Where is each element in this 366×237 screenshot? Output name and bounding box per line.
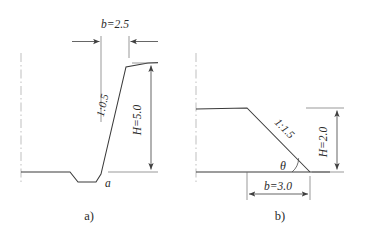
panel-a-slope-ratio-label: 1:0.5 — [94, 92, 111, 118]
panel-a-caption: a) — [84, 209, 94, 223]
panel-b-height-label: H=2.0 — [317, 127, 329, 159]
panel-a-crest-width-label: b=2.5 — [101, 18, 129, 30]
panel-b: 1:1.5 θ H=2.0 b=3.0 b) — [196, 53, 344, 223]
panel-a-toe-point-label: a — [105, 177, 111, 189]
panel-a-height-label: H=5.0 — [131, 105, 143, 137]
panel-b-caption: b) — [275, 209, 285, 223]
panel-b-base-angle-label: θ — [280, 159, 286, 173]
panel-b-terrain-profile — [196, 108, 310, 172]
panel-b-angle-arc — [292, 158, 299, 172]
figure-canvas: b=2.5 1:0.5 H=5.0 a a) — [0, 0, 366, 237]
engineering-figure: b=2.5 1:0.5 H=5.0 a a) — [0, 0, 366, 237]
panel-a-terrain-profile — [21, 63, 148, 182]
panel-a-slope-ratio-group: 1:0.5 — [94, 92, 111, 118]
panel-a: b=2.5 1:0.5 H=5.0 a a) — [21, 18, 158, 223]
panel-b-base-width-label: b=3.0 — [264, 180, 292, 192]
